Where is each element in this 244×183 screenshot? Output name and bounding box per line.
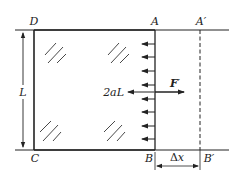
tension-label: 2aL bbox=[102, 86, 124, 99]
corner-label-a: A bbox=[150, 15, 159, 28]
displacement-label: Δx bbox=[170, 151, 185, 164]
corner-label-d: D bbox=[29, 15, 39, 28]
corner-label-b-prime: B′ bbox=[203, 152, 215, 165]
force-label: F′ bbox=[169, 76, 181, 90]
corner-label-a-prime: A′ bbox=[195, 15, 207, 28]
displacement-dimension: Δx bbox=[155, 150, 200, 170]
height-label: L bbox=[18, 86, 26, 99]
corner-label-b: B bbox=[144, 152, 153, 165]
corner-label-c: C bbox=[31, 152, 40, 165]
film-frame-diagram: L D A A′ C B B′ 2aL F′ Δx bbox=[0, 0, 244, 183]
height-dimension: L bbox=[17, 33, 29, 147]
